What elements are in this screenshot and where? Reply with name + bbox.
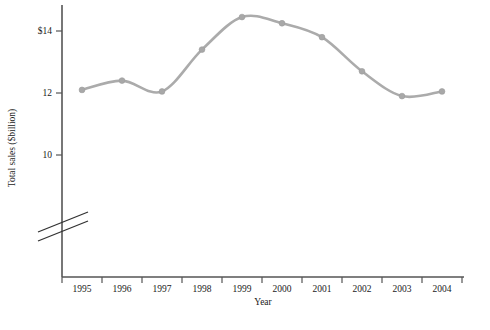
data-point-marker: 1997: 12.05	[159, 89, 165, 95]
data-point-marker: 1998: 13.4	[199, 47, 205, 53]
x-tick-label-group: 1995199619971998199920002001200220032004	[73, 284, 452, 294]
data-marker-group: 1995: 12.11996: 12.41997: 12.051998: 13.…	[79, 14, 445, 99]
x-tick-label: 2000	[273, 284, 292, 294]
x-tick-label: 2004	[433, 284, 452, 294]
data-point-marker: 1995: 12.1	[79, 87, 85, 93]
x-tick-label: 1997	[153, 284, 172, 294]
y-axis-title: Total sales ($billion)	[7, 109, 18, 188]
x-tick-label: 1999	[233, 284, 252, 294]
data-point-marker: 2000: 14.25	[279, 20, 285, 26]
data-point-marker: 2001: 13.8	[319, 34, 325, 40]
data-point-marker: 2002: 12.7	[359, 68, 365, 74]
data-point-marker: 1999: 14.45	[239, 14, 245, 20]
data-point-marker: 2003: 11.9	[399, 93, 405, 99]
axis-break-symbol	[38, 212, 88, 241]
x-axis-title: Year	[254, 297, 272, 307]
data-point-marker: 2004: 12.05	[439, 89, 445, 95]
x-tick-group	[62, 277, 462, 283]
y-tick-group: $141210	[38, 26, 62, 160]
y-tick-label: 12	[43, 88, 53, 98]
x-tick-label: 2001	[313, 284, 332, 294]
x-tick-label: 2003	[393, 284, 412, 294]
chart-canvas: $141210 19951996199719981999200020012002…	[0, 0, 490, 330]
data-point-marker: 1996: 12.4	[119, 78, 125, 84]
x-tick-label: 1995	[73, 284, 92, 294]
x-tick-label: 1998	[193, 284, 212, 294]
y-tick-label: $14	[38, 26, 53, 36]
y-tick-label: 10	[43, 150, 53, 160]
data-series-line	[82, 16, 442, 97]
line-chart: $141210 19951996199719981999200020012002…	[0, 0, 490, 330]
x-tick-label: 1996	[113, 284, 132, 294]
x-tick-label: 2002	[353, 284, 372, 294]
